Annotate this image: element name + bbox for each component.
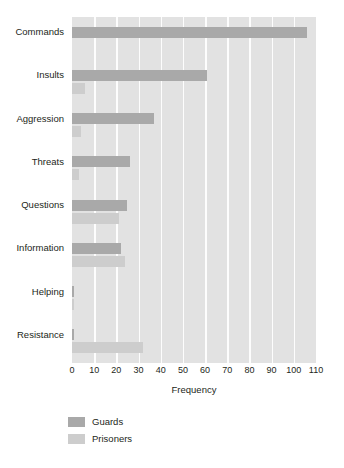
- y-axis-label-insults: Insults: [37, 71, 64, 81]
- bar-prisoners-resistance: [72, 342, 143, 353]
- y-axis-label-helping: Helping: [32, 287, 64, 297]
- x-tick-110: 110: [309, 366, 323, 375]
- plot-area: [72, 17, 316, 363]
- legend-label: Prisoners: [92, 434, 132, 444]
- x-tick-60: 60: [200, 366, 210, 375]
- y-axis-label-threats: Threats: [32, 157, 64, 167]
- y-axis-label-questions: Questions: [21, 200, 64, 210]
- x-tick-90: 90: [267, 366, 277, 375]
- legend-label: Guards: [92, 417, 123, 427]
- x-tick-80: 80: [244, 366, 254, 375]
- x-tick-100: 100: [286, 366, 301, 375]
- x-tick-30: 30: [134, 366, 144, 375]
- bar-guards-resistance: [72, 329, 74, 340]
- bar-prisoners-threats: [72, 169, 79, 180]
- y-axis-label-commands: Commands: [15, 27, 64, 37]
- legend-item-guards[interactable]: Guards: [68, 414, 132, 429]
- x-tick-20: 20: [111, 366, 121, 375]
- bar-guards-questions: [72, 200, 127, 211]
- x-axis-title: Frequency: [72, 384, 316, 395]
- bar-chart: CommandsInsultsAggressionThreatsQuestion…: [0, 0, 344, 468]
- y-axis-label-resistance: Resistance: [17, 330, 64, 340]
- bar-prisoners-insults: [72, 83, 85, 94]
- y-axis-labels: CommandsInsultsAggressionThreatsQuestion…: [0, 17, 68, 363]
- y-axis-label-aggression: Aggression: [16, 114, 64, 124]
- bar-prisoners-questions: [72, 213, 119, 224]
- bar-prisoners-information: [72, 256, 125, 267]
- bars-layer: [72, 17, 316, 363]
- x-tick-10: 10: [89, 366, 99, 375]
- x-tick-0: 0: [69, 366, 74, 375]
- legend: GuardsPrisoners: [68, 414, 132, 448]
- legend-swatch-icon: [68, 434, 85, 444]
- bar-guards-threats: [72, 156, 130, 167]
- bar-guards-aggression: [72, 113, 154, 124]
- legend-item-prisoners[interactable]: Prisoners: [68, 431, 132, 446]
- x-tick-50: 50: [178, 366, 188, 375]
- bar-guards-insults: [72, 70, 207, 81]
- bar-prisoners-helping: [72, 299, 74, 310]
- bar-guards-helping: [72, 286, 74, 297]
- y-axis-label-information: Information: [16, 244, 64, 254]
- bar-guards-commands: [72, 27, 307, 38]
- bar-prisoners-aggression: [72, 126, 81, 137]
- x-tick-40: 40: [156, 366, 166, 375]
- bar-guards-information: [72, 243, 121, 254]
- x-tick-70: 70: [222, 366, 232, 375]
- x-axis-ticks: 0102030405060708090100110: [72, 366, 316, 380]
- legend-swatch-icon: [68, 417, 85, 427]
